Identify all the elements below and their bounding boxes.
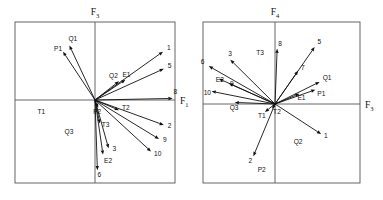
vector-Q1: Q1 xyxy=(68,35,95,100)
vector-label-T1: T1 xyxy=(258,112,266,119)
vector-arrowhead-P1 xyxy=(63,52,67,56)
panel-left: F3F1P1Q1158291036E2T3T2E1Q2P2T1Q3 xyxy=(15,7,189,183)
x-axis-label: F3 xyxy=(365,100,374,112)
vector-arrowhead-9 xyxy=(155,135,159,139)
vector-arrowhead-Q1 xyxy=(315,82,320,85)
vector-label-T2: T2 xyxy=(273,108,281,115)
vector-arrowhead-1 xyxy=(317,130,321,134)
vector-1: 1 xyxy=(275,104,328,139)
vector-label-Q1: Q1 xyxy=(323,74,332,82)
vector-label-Q3: Q3 xyxy=(230,104,239,112)
vector-line-9 xyxy=(233,85,275,104)
vector-label-T3: T3 xyxy=(102,121,110,128)
vector-label-5: 5 xyxy=(168,62,172,69)
vector-label-8: 8 xyxy=(278,40,282,47)
quadrant-label-T3: T3 xyxy=(256,49,264,56)
vector-label-10: 10 xyxy=(154,150,162,157)
vector-arrowhead-2 xyxy=(159,122,164,125)
vector-loading-plot-figure: F3F1P1Q1158291036E2T3T2E1Q2P2T1Q3F4F3587… xyxy=(0,0,383,200)
vector-line-10 xyxy=(216,92,275,104)
vector-T2: T2 xyxy=(272,104,281,115)
vector-label-2: 2 xyxy=(168,122,172,129)
vector-arrowhead-10 xyxy=(212,91,216,94)
vector-arrowhead-6 xyxy=(209,66,213,70)
quadrant-label-P2: P2 xyxy=(258,166,266,173)
vector-label-3: 3 xyxy=(228,50,232,57)
quadrant-label-Q3: Q3 xyxy=(65,128,74,136)
vector-label-E1: E1 xyxy=(297,94,305,101)
vector-label-8: 8 xyxy=(174,88,178,95)
vector-label-9: 9 xyxy=(230,80,234,87)
vector-label-E2: E2 xyxy=(104,157,112,164)
vector-label-Q2: Q2 xyxy=(109,72,118,80)
panel-right: F4F3587Q1P1E136E2910Q312T1T2T3Q2P2 xyxy=(201,7,374,183)
vector-arrowhead-8 xyxy=(275,49,278,53)
vector-6: 6 xyxy=(201,58,275,104)
vector-label-10: 10 xyxy=(204,89,212,96)
vector-arrowhead-E2 xyxy=(101,150,104,154)
vector-label-P1: P1 xyxy=(317,90,325,97)
vector-line-Q1 xyxy=(71,49,95,100)
vector-arrowhead-7 xyxy=(294,71,298,75)
x-axis-label: F1 xyxy=(180,96,189,108)
y-axis-label: F4 xyxy=(271,7,280,19)
vector-arrowhead-2 xyxy=(253,152,256,157)
figure-canvas: F3F1P1Q1158291036E2T3T2E1Q2P2T1Q3F4F3587… xyxy=(0,0,383,200)
vector-label-T2: T2 xyxy=(122,104,130,111)
vector-5: 5 xyxy=(95,62,172,100)
vector-arrowhead-1 xyxy=(159,52,163,56)
vector-label-6: 6 xyxy=(97,171,101,178)
vector-label-1: 1 xyxy=(324,132,328,139)
vector-line-1 xyxy=(275,104,318,132)
vector-9: 9 xyxy=(229,80,275,104)
vector-10: 10 xyxy=(204,89,275,104)
vector-P1: P1 xyxy=(54,45,95,100)
vector-label-Q1: Q1 xyxy=(68,35,77,43)
vector-label-7: 7 xyxy=(301,64,305,71)
quadrant-label-T1: T1 xyxy=(37,108,45,115)
vector-8: 8 xyxy=(275,40,282,104)
vector-line-T2 xyxy=(274,104,275,105)
vector-label-2: 2 xyxy=(248,157,252,164)
vector-arrowhead-E1 xyxy=(121,80,125,84)
vector-label-E1: E1 xyxy=(122,71,130,78)
vector-arrowhead-6 xyxy=(96,166,99,170)
vector-label-E2: E2 xyxy=(216,76,224,83)
vector-arrowhead-Q1 xyxy=(69,45,72,50)
vector-arrowhead-5 xyxy=(311,47,315,51)
vector-label-6: 6 xyxy=(201,58,205,65)
vector-label-5: 5 xyxy=(318,38,322,45)
vector-label-3: 3 xyxy=(113,145,117,152)
vector-label-P2: P2 xyxy=(93,108,101,115)
vector-arrowhead-P1 xyxy=(311,90,316,93)
quadrant-label-Q2: Q2 xyxy=(294,138,303,146)
vector-label-9: 9 xyxy=(163,136,167,143)
vector-label-P1: P1 xyxy=(54,45,62,52)
vector-arrowhead-3 xyxy=(106,144,109,149)
vector-label-1: 1 xyxy=(167,44,171,51)
vector-line-P1 xyxy=(65,55,95,100)
vector-arrowhead-5 xyxy=(159,69,164,72)
y-axis-label: F3 xyxy=(91,7,100,19)
